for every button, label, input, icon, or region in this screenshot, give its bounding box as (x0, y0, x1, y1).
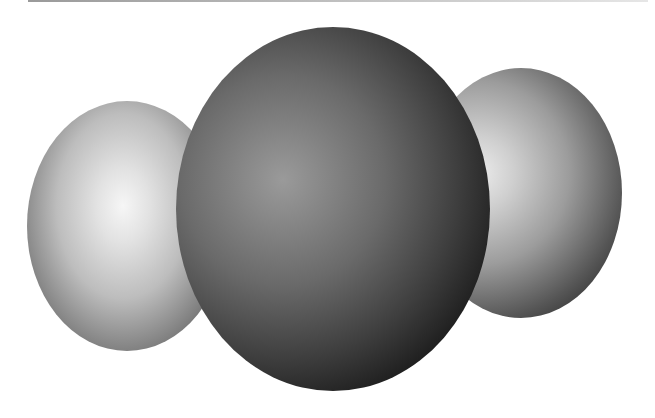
molecule-model (0, 0, 655, 418)
center-atom-sphere (176, 27, 490, 391)
